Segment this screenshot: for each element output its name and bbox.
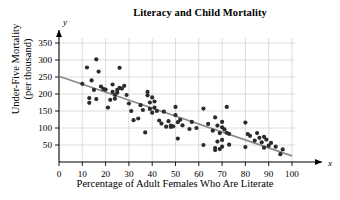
svg-text:50: 50: [43, 140, 53, 150]
svg-text:90: 90: [264, 169, 274, 179]
x-axis-letter: x: [327, 158, 332, 168]
data-points: [80, 57, 285, 156]
svg-text:20: 20: [101, 169, 111, 179]
svg-text:50: 50: [171, 169, 181, 179]
svg-text:60: 60: [194, 169, 204, 179]
svg-text:30: 30: [124, 169, 134, 179]
svg-text:0: 0: [57, 169, 62, 179]
svg-text:100: 100: [285, 169, 299, 179]
svg-text:40: 40: [148, 169, 158, 179]
svg-text:100: 100: [38, 123, 52, 133]
chart-figure: Literacy and Child Mortality Under-Five …: [0, 0, 340, 200]
svg-text:10: 10: [78, 169, 88, 179]
y-axis-letter: y: [62, 17, 67, 27]
svg-text:300: 300: [38, 55, 52, 65]
svg-text:250: 250: [38, 72, 52, 82]
scatter-plot: 0102030405060708090100501001502002503003…: [0, 0, 340, 200]
svg-text:70: 70: [218, 169, 228, 179]
svg-text:350: 350: [38, 38, 52, 48]
tick-labels: 0102030405060708090100501001502002503003…: [38, 38, 299, 179]
svg-text:200: 200: [38, 89, 52, 99]
svg-text:150: 150: [38, 106, 52, 116]
svg-text:80: 80: [241, 169, 251, 179]
